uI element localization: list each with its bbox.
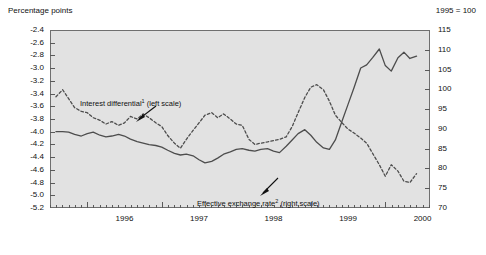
- x-axis-minor-tick: [367, 205, 368, 208]
- x-axis-minor-tick: [180, 205, 181, 208]
- left-axis-tick-label: -4.8: [8, 179, 44, 187]
- x-axis-minor-tick: [143, 205, 144, 208]
- right-axis-tick-label: 90: [438, 125, 447, 133]
- left-axis-tick-label: -4.6: [8, 166, 44, 174]
- left-axis-tick-label: -2.6: [8, 39, 44, 47]
- left-axis-tick: [50, 170, 55, 171]
- left-axis-tick-label: -4.0: [8, 128, 44, 136]
- left-axis-tick-label: -3.0: [8, 64, 44, 72]
- x-axis-minor-tick: [131, 205, 132, 208]
- x-axis-tick-label: 1996: [116, 215, 134, 223]
- x-axis-minor-tick: [93, 205, 94, 208]
- left-axis-unit-label: Percentage points: [8, 6, 73, 16]
- x-axis-minor-tick: [249, 205, 250, 208]
- x-axis-minor-tick: [298, 205, 299, 208]
- left-axis-tick: [50, 43, 55, 44]
- left-axis-tick: [50, 144, 55, 145]
- right-axis-unit-label: 1995 = 100: [436, 6, 476, 16]
- left-axis-tick-label: -4.4: [8, 153, 44, 161]
- annotation-scale-note: (left scale): [145, 99, 182, 108]
- x-axis-tick-label: 1999: [339, 215, 357, 223]
- left-axis-tick-label: -3.6: [8, 102, 44, 110]
- effective-exchange-rate-callout-arrow: [260, 178, 278, 196]
- right-axis-tick-label: 85: [438, 145, 447, 153]
- x-axis-tick-label: 1997: [190, 215, 208, 223]
- x-axis-minor-tick: [218, 205, 219, 208]
- right-axis-tick-label: 115: [438, 26, 451, 34]
- x-axis-minor-tick: [242, 205, 243, 208]
- right-axis-tick-label: 100: [438, 85, 451, 93]
- x-axis-major-tick: [311, 202, 312, 208]
- left-axis-tick-label: -2.4: [8, 26, 44, 34]
- left-axis-tick-label: -4.2: [8, 140, 44, 148]
- x-axis-minor-tick: [360, 205, 361, 208]
- left-axis-tick: [50, 119, 55, 120]
- x-axis-minor-tick: [255, 205, 256, 208]
- right-axis-tick: [425, 188, 430, 189]
- x-axis-minor-tick: [379, 205, 380, 208]
- left-axis-tick: [50, 106, 55, 107]
- annotation-text: Interest differential: [80, 99, 142, 108]
- chart-plot-area: [50, 30, 430, 208]
- x-axis-minor-tick: [156, 205, 157, 208]
- x-axis-minor-tick: [75, 205, 76, 208]
- left-axis-tick: [50, 157, 55, 158]
- x-axis-minor-tick: [224, 205, 225, 208]
- x-axis-minor-tick: [100, 205, 101, 208]
- left-axis-tick-label: -2.8: [8, 51, 44, 59]
- x-axis-minor-tick: [69, 205, 70, 208]
- right-axis-tick: [425, 50, 430, 51]
- x-axis-minor-tick: [205, 205, 206, 208]
- left-axis-tick-label: -3.4: [8, 90, 44, 98]
- x-axis-minor-tick: [261, 205, 262, 208]
- x-axis-minor-tick: [62, 205, 63, 208]
- right-axis-tick: [425, 129, 430, 130]
- left-axis-tick: [50, 195, 55, 196]
- x-axis-minor-tick: [125, 205, 126, 208]
- x-axis-minor-tick: [193, 205, 194, 208]
- x-axis-minor-tick: [230, 205, 231, 208]
- x-axis-minor-tick: [280, 205, 281, 208]
- right-axis-tick-label: 80: [438, 164, 447, 172]
- annotation-effective-exchange-rate: Effective exchange rate2 (right scale): [197, 199, 320, 208]
- x-axis-minor-tick: [336, 205, 337, 208]
- left-axis-tick: [50, 81, 55, 82]
- x-axis-minor-tick: [398, 205, 399, 208]
- x-axis-minor-tick: [348, 205, 349, 208]
- x-axis-minor-tick: [305, 205, 306, 208]
- x-axis-minor-tick: [354, 205, 355, 208]
- left-axis-tick: [50, 132, 55, 133]
- x-axis-minor-tick: [118, 205, 119, 208]
- right-axis-tick: [425, 70, 430, 71]
- left-axis-tick: [50, 55, 55, 56]
- x-axis-minor-tick: [56, 205, 57, 208]
- left-axis-tick-label: -3.8: [8, 115, 44, 123]
- x-axis-minor-tick: [106, 205, 107, 208]
- left-axis-tick-label: -5.2: [8, 204, 44, 212]
- x-axis-major-tick: [385, 202, 386, 208]
- left-axis-tick: [50, 68, 55, 69]
- right-axis-tick-label: 70: [438, 204, 447, 212]
- x-axis-minor-tick: [149, 205, 150, 208]
- x-axis-minor-tick: [373, 205, 374, 208]
- right-axis-tick: [425, 149, 430, 150]
- x-axis-minor-tick: [199, 205, 200, 208]
- x-axis-minor-tick: [267, 205, 268, 208]
- x-axis-minor-tick: [423, 205, 424, 208]
- x-axis-minor-tick: [81, 205, 82, 208]
- x-axis-minor-tick: [317, 205, 318, 208]
- x-axis-tick-label: 2000: [414, 215, 432, 223]
- left-axis-tick-label: -5.0: [8, 191, 44, 199]
- x-axis-minor-tick: [137, 205, 138, 208]
- x-axis-minor-tick: [392, 205, 393, 208]
- x-axis-major-tick: [162, 202, 163, 208]
- right-axis-tick: [425, 89, 430, 90]
- x-axis-minor-tick: [416, 205, 417, 208]
- right-axis-tick-label: 105: [438, 66, 451, 74]
- x-axis-minor-tick: [274, 205, 275, 208]
- right-axis-tick: [425, 168, 430, 169]
- x-axis-minor-tick: [404, 205, 405, 208]
- x-axis-tick-label: 1998: [265, 215, 283, 223]
- right-axis-tick-label: 110: [438, 46, 451, 54]
- left-axis-tick: [50, 94, 55, 95]
